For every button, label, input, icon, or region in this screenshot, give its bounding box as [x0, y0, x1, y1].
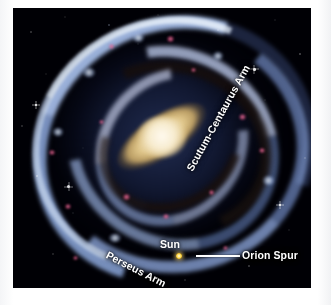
nebula-knot: [209, 190, 214, 195]
nebula-knot: [163, 214, 169, 219]
nebula-knot: [109, 44, 114, 49]
star-cluster: [109, 234, 121, 242]
nebula-knot: [223, 246, 228, 250]
nebula-knot: [191, 68, 196, 72]
star-cluster: [53, 128, 63, 136]
nebula-knot: [123, 194, 130, 200]
nebula-knot: [73, 256, 78, 260]
star-cluster: [133, 34, 144, 42]
nebula-knot: [65, 204, 71, 209]
nebula-knot: [49, 150, 55, 155]
star-cluster: [263, 176, 274, 185]
nebula-knot: [259, 148, 265, 153]
galactic-bulge: [138, 117, 186, 157]
star-cluster: [83, 68, 95, 77]
nebula-knot: [167, 36, 174, 42]
nebula-knot: [99, 120, 104, 124]
star-cluster: [213, 52, 223, 60]
label-orion-spur: Orion Spur: [242, 249, 298, 261]
orion-spur-leader-line: [196, 255, 240, 257]
label-sun: Sun: [160, 238, 180, 250]
milky-way-illustration: Scutum-Centaurus Arm Perseus Arm Sun Ori…: [13, 8, 311, 288]
nebula-knot: [239, 114, 246, 120]
sun-marker-dot: [176, 253, 182, 259]
